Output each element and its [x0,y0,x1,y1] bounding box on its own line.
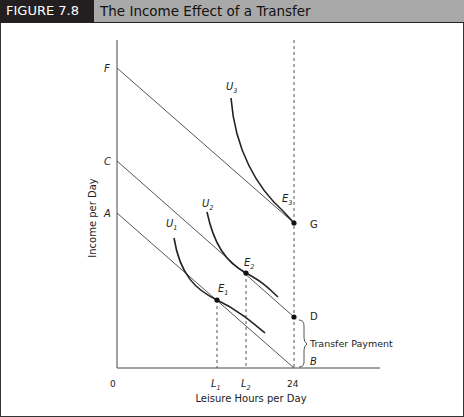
tick-l1: L1 [211,378,221,392]
label-u3: U3 [226,81,237,95]
point-d [291,314,296,319]
label-e1: E1 [218,283,228,297]
tick-24: 24 [287,379,299,389]
point-e1 [214,297,219,302]
point-g [291,220,296,225]
transfer-brace [299,320,307,367]
tick-0: 0 [110,379,116,389]
x-axis-title: Leisure Hours per Day [195,393,306,404]
label-u2: U2 [202,198,213,212]
label-e3: E3 [282,193,292,207]
label-c: C [104,156,111,167]
label-b: B [310,356,317,367]
tick-l2: L2 [241,378,251,392]
label-transfer-payment: Transfer Payment [309,338,393,349]
indifference-curve-u3 [231,98,294,223]
point-e2 [243,270,248,275]
label-f: F [104,63,110,74]
label-a: A [103,208,111,219]
label-d: D [310,311,318,322]
label-u1: U1 [166,218,177,232]
budget-line-ab [117,213,294,368]
chart: F C A G D B Transfer Payment U3 U2 U1 E1… [0,0,464,417]
label-e2: E2 [244,257,254,271]
y-axis-title: Income per Day [87,178,98,258]
label-g: G [310,219,318,230]
